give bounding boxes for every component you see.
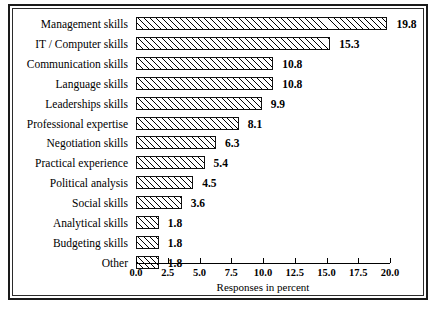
bar-category-label: Leaderships skills [10,96,128,112]
bar-category-label: IT / Computer skills [10,36,128,52]
x-axis-tick-mark [295,258,296,263]
bar [136,156,205,169]
x-axis-tick-mark [200,258,201,263]
bar-category-label: Communication skills [10,56,128,72]
bar-row: Communication skills10.8 [10,56,430,76]
bar-row: Management skills19.8 [10,16,430,36]
bar-category-label: Analytical skills [10,215,128,231]
bar-row: Leaderships skills9.9 [10,96,430,116]
bar [136,216,159,229]
bar-row: Practical experience5.4 [10,155,430,175]
bar-value-label: 19.8 [396,16,416,32]
bar-value-label: 3.6 [191,195,205,211]
bar-category-label: Political analysis [10,175,128,191]
bar [136,176,193,189]
bar-category-label: Other [10,255,128,271]
bar-value-label: 10.8 [282,56,302,72]
bar-chart-plot-area: Management skills19.8IT / Computer skill… [10,6,430,302]
x-axis-line [136,263,390,264]
bar [136,37,330,50]
bar-category-label: Management skills [10,16,128,32]
x-axis-tick-mark [263,258,264,263]
bar-value-label: 1.8 [168,215,182,231]
bar-category-label: Practical experience [10,155,128,171]
x-axis-title: Responses in percent [136,280,390,294]
bar-row: Professional expertise8.1 [10,116,430,136]
x-axis-tick-mark [327,258,328,263]
bar [136,196,182,209]
bar [136,17,387,30]
bar-value-label: 4.5 [202,175,216,191]
bar [136,57,273,70]
bar-value-label: 5.4 [214,155,228,171]
bar-value-label: 6.3 [225,135,239,151]
bar-row: Negotiation skills6.3 [10,135,430,155]
bar [136,117,239,130]
bar [136,97,262,110]
x-axis-tick-mark [390,258,391,263]
bar-value-label: 9.9 [271,96,285,112]
x-axis-tick-mark [136,258,137,263]
bar-row: IT / Computer skills15.3 [10,36,430,56]
bar-value-label: 10.8 [282,76,302,92]
bar-category-label: Language skills [10,76,128,92]
bar-value-label: 1.8 [168,235,182,251]
x-axis-tick-mark [358,258,359,263]
bar-category-label: Social skills [10,195,128,211]
bar-row: Language skills10.8 [10,76,430,96]
x-axis-tick-mark [168,258,169,263]
bar-row: Budgeting skills1.8 [10,235,430,255]
bar-value-label: 8.1 [248,116,262,132]
bar [136,136,216,149]
bar-row: Social skills3.6 [10,195,430,215]
bar-category-label: Professional expertise [10,116,128,132]
bar-row: Analytical skills1.8 [10,215,430,235]
bar-category-label: Budgeting skills [10,235,128,251]
figure-frame: Management skills19.8IT / Computer skill… [8,4,428,300]
bar-value-label: 15.3 [339,36,359,52]
bar [136,77,273,90]
bar [136,236,159,249]
bar-category-label: Negotiation skills [10,135,128,151]
x-axis-tick-label: 20.0 [370,266,410,280]
bar-row: Political analysis4.5 [10,175,430,195]
x-axis-tick-mark [231,258,232,263]
